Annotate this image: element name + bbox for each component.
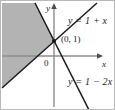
intersection-point-label: (0, 1) (61, 35, 81, 44)
origin-label: 0 (44, 59, 49, 68)
y-axis-arrowhead (51, 3, 57, 9)
intersection-point-marker (52, 39, 56, 43)
y-axis-label: y (46, 4, 50, 13)
shaded-solution-region (2, 3, 54, 88)
x-axis-label: x (102, 60, 106, 69)
graph-figure: y = 1 + x y = 1 − 2x (0, 1) y x 0 (0, 0, 115, 110)
line2-equation-label: y = 1 − 2x (68, 77, 112, 87)
line1-equation-label: y = 1 + x (68, 16, 107, 26)
x-axis-arrowhead (97, 53, 103, 59)
